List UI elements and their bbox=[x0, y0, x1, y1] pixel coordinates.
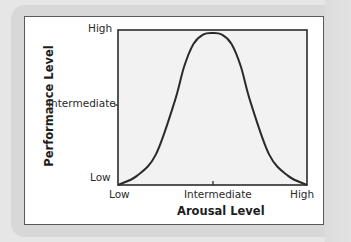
y-axis-title: Performance Level bbox=[42, 45, 56, 166]
y-tick-high-label: High bbox=[88, 22, 112, 34]
plot-area bbox=[118, 30, 307, 185]
x-axis-title: Arousal Level bbox=[177, 204, 265, 218]
x-tick-mid-label: Intermediate bbox=[184, 188, 252, 200]
x-tick-low-label: Low bbox=[109, 188, 130, 200]
x-tick-high-label: High bbox=[290, 188, 314, 200]
y-tick-mid-label: Intermediate bbox=[48, 97, 116, 109]
y-tick-low-label: Low bbox=[90, 171, 111, 183]
